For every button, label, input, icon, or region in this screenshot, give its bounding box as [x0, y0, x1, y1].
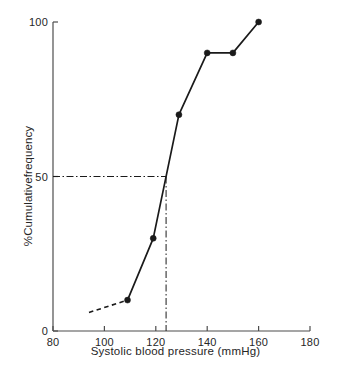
- data-point-marker: [176, 112, 182, 118]
- y-tick-label: 100: [20, 16, 48, 28]
- chart-figure: 80100120140160180 050100 Systolic blood …: [0, 0, 351, 370]
- data-point-marker: [230, 50, 236, 56]
- median-guide-lines: [53, 177, 166, 332]
- data-point-marker: [125, 297, 131, 303]
- series-extrapolated-tail: [89, 300, 128, 312]
- data-point-marker: [150, 235, 156, 241]
- y-tick-label: 0: [20, 325, 48, 337]
- data-point-marker: [204, 50, 210, 56]
- cumulative-frequency-line: [128, 22, 259, 300]
- series-cumulative-frequency: [128, 22, 259, 300]
- data-point-markers: [125, 19, 262, 303]
- axis-lines: [53, 22, 310, 331]
- y-axis-title: %Cumulativefrequency: [22, 116, 34, 256]
- data-point-marker: [256, 19, 262, 25]
- extrapolated-line: [89, 300, 128, 312]
- x-axis-ticks: [53, 326, 310, 331]
- x-axis-title: Systolic blood pressure (mmHg): [0, 345, 351, 357]
- plot-canvas: [0, 0, 351, 370]
